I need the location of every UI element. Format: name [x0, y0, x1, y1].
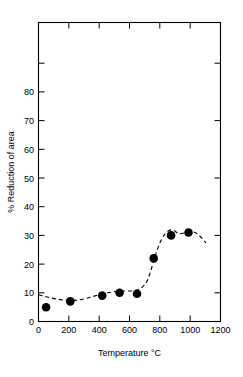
data-points: [42, 228, 193, 311]
data-point: [66, 297, 75, 306]
data-point: [98, 291, 107, 300]
y-axis-tick-labels: 0 10 20 30 40 50 60 70 80: [24, 87, 34, 327]
data-point: [149, 254, 158, 263]
x-tick-label: 800: [152, 325, 167, 335]
y-tick-label: 20: [24, 260, 34, 270]
x-tick-label: 600: [122, 325, 137, 335]
data-point: [42, 303, 51, 312]
y-tick-label: 30: [24, 231, 34, 241]
y-tick-label: 70: [24, 116, 34, 126]
scatter-plot-svg: 0 10 20 30 40 50 60 70 80: [0, 0, 243, 377]
y-tick-label: 50: [24, 174, 34, 184]
data-point: [133, 289, 142, 298]
chart-figure: 0 10 20 30 40 50 60 70 80: [0, 0, 243, 377]
data-point: [184, 228, 193, 237]
y-tick-label: 60: [24, 145, 34, 155]
x-axis-title: Temperature °C: [98, 348, 162, 358]
plot-frame: [39, 23, 221, 322]
y-tick-label: 40: [24, 202, 34, 212]
top-axis-ticks: [69, 23, 190, 29]
x-tick-label: 1000: [180, 325, 200, 335]
y-tick-label: 10: [24, 288, 34, 298]
y-tick-label: 80: [24, 87, 34, 97]
right-axis-ticks: [215, 63, 221, 293]
data-point: [167, 231, 176, 240]
x-tick-label: 1200: [210, 325, 230, 335]
y-axis-title: % Reduction of area: [6, 131, 16, 213]
x-axis-tick-labels: 0 200 400 600 800 1000 1200: [36, 325, 231, 335]
data-point: [115, 289, 124, 298]
y-axis-ticks: [39, 63, 45, 321]
y-tick-label: 0: [29, 317, 34, 327]
x-tick-label: 0: [36, 325, 41, 335]
x-tick-label: 200: [61, 325, 76, 335]
x-axis-ticks: [39, 316, 221, 322]
x-tick-label: 400: [92, 325, 107, 335]
